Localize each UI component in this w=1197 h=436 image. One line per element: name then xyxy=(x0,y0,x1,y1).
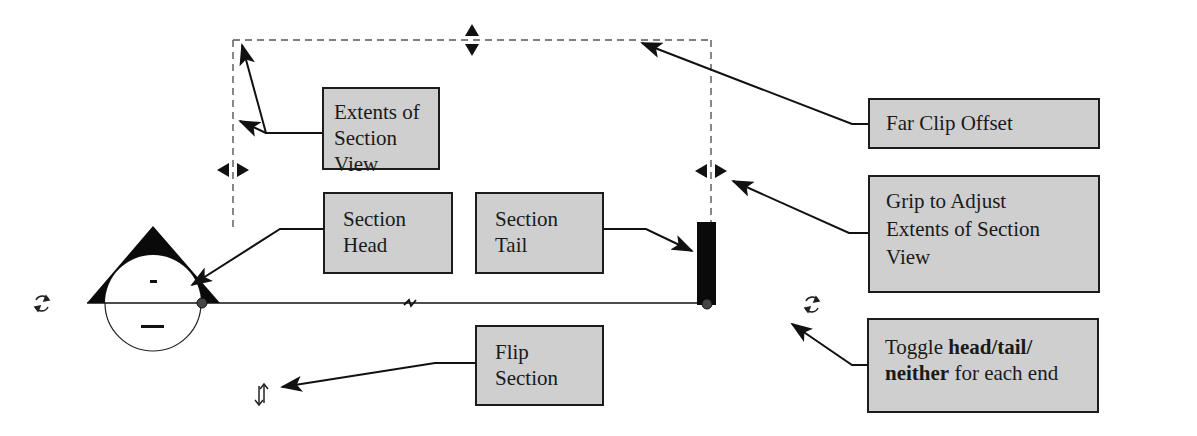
callout-text-line: Toggle head/tail/ xyxy=(885,334,1081,360)
callout-section-head: Section Head xyxy=(323,192,453,274)
flip-section-icon[interactable] xyxy=(255,384,268,405)
callout-toggle-head-tail: Toggle head/tail/ neither for each end xyxy=(867,318,1099,413)
toggle-text-plain: Toggle xyxy=(885,335,948,359)
toggle-text-bold: head/tail/ xyxy=(948,335,1032,359)
callout-text-line: Section xyxy=(343,206,433,232)
callout-far-clip-offset: Far Clip Offset xyxy=(868,98,1100,149)
section-extents-boundary xyxy=(233,40,711,232)
callout-extents-of-section-view: Extents of Section View xyxy=(322,87,440,170)
callout-text-line: Extents of Section xyxy=(886,215,1082,243)
callout-text-line: Section View xyxy=(334,125,428,177)
toggle-text-bold: neither xyxy=(885,361,949,385)
callout-text-line: Flip xyxy=(495,339,584,365)
toggle-tail-cycle-icon[interactable] xyxy=(805,297,819,312)
callout-grip-adjust-extents: Grip to Adjust Extents of Section View xyxy=(868,175,1100,293)
callout-flip-section: Flip Section xyxy=(475,325,604,406)
section-head-symbol[interactable] xyxy=(87,226,220,351)
callout-text-line: Section xyxy=(495,365,584,391)
callout-text-line: Extents of xyxy=(334,99,428,125)
callout-text-line: neither for each end xyxy=(885,360,1081,386)
section-line-break-icon xyxy=(404,300,416,306)
callout-text-line: Section xyxy=(495,206,584,232)
callout-text-line: View xyxy=(886,243,1082,271)
callout-text-line: Grip to Adjust xyxy=(886,187,1082,215)
toggle-head-cycle-icon[interactable] xyxy=(35,296,49,311)
section-tail-symbol[interactable] xyxy=(697,222,716,309)
callout-text-line: Head xyxy=(343,232,433,258)
callout-section-tail: Section Tail xyxy=(475,192,604,274)
callout-text-line: Tail xyxy=(495,232,584,258)
callout-text-line: Far Clip Offset xyxy=(886,110,1082,136)
toggle-text-plain: for each end xyxy=(949,361,1058,385)
